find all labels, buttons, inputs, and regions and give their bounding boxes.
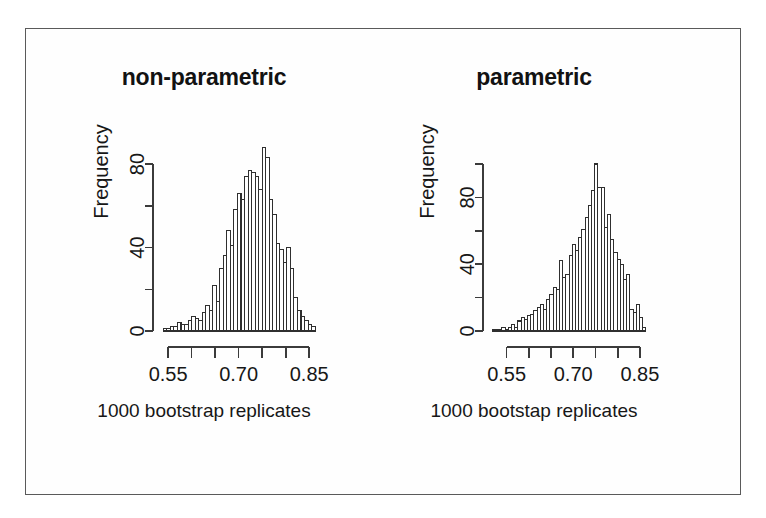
svg-text:40: 40 xyxy=(456,253,478,275)
svg-text:0.70: 0.70 xyxy=(554,363,593,385)
svg-text:0.55: 0.55 xyxy=(149,363,188,385)
panel-container: non-parametric Frequency 040800.550.700.… xyxy=(25,28,741,495)
svg-text:0.85: 0.85 xyxy=(290,363,329,385)
svg-text:80: 80 xyxy=(456,186,478,208)
histogram-plot-parametric: 040800.550.700.85 xyxy=(355,28,713,398)
svg-text:0.70: 0.70 xyxy=(219,363,258,385)
svg-text:0.85: 0.85 xyxy=(620,363,659,385)
svg-text:0: 0 xyxy=(456,325,478,336)
panel-parametric: parametric Frequency 040800.550.700.85 1… xyxy=(355,28,713,495)
panel-non-parametric: non-parametric Frequency 040800.550.700.… xyxy=(25,28,383,495)
panel-caption-non-parametric: 1000 bootstrap replicates xyxy=(25,400,383,422)
svg-text:0.55: 0.55 xyxy=(487,363,526,385)
svg-text:80: 80 xyxy=(126,153,148,175)
svg-text:0: 0 xyxy=(126,325,148,336)
histogram-plot-non-parametric: 040800.550.700.85 xyxy=(25,28,383,398)
svg-text:40: 40 xyxy=(126,236,148,258)
figure-root: non-parametric Frequency 040800.550.700.… xyxy=(0,0,766,518)
panel-caption-parametric: 1000 bootstap replicates xyxy=(355,400,713,422)
